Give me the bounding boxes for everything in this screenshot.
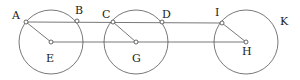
- segment-a-e: [26, 22, 51, 42]
- point-c: [111, 20, 115, 24]
- point-h: [244, 40, 248, 44]
- geometry-diagram: A B C D I K E G H: [0, 0, 300, 80]
- label-k: K: [280, 15, 289, 28]
- segment-c-g: [113, 22, 136, 42]
- point-g: [134, 40, 138, 44]
- label-a: A: [11, 9, 21, 22]
- label-h: H: [242, 45, 252, 58]
- point-b: [75, 19, 79, 23]
- segment-a-i: [26, 22, 222, 23]
- label-g: G: [132, 52, 141, 65]
- point-i: [220, 21, 224, 25]
- point-e: [49, 40, 53, 44]
- label-e: E: [46, 52, 54, 65]
- label-b: B: [75, 4, 83, 17]
- segment-i-h: [222, 23, 246, 42]
- label-d: D: [162, 8, 171, 21]
- label-c: C: [102, 8, 110, 21]
- point-a: [24, 20, 28, 24]
- label-i: I: [215, 6, 219, 19]
